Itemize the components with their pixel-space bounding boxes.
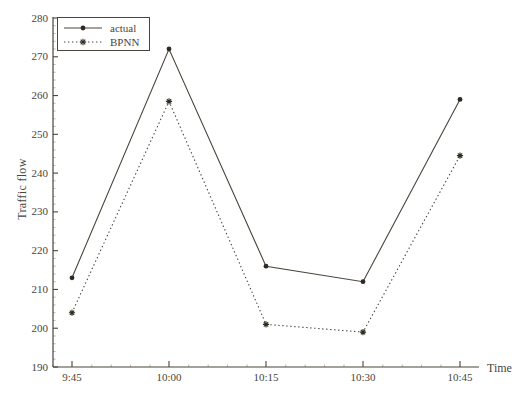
data-point-actual bbox=[70, 275, 75, 280]
data-point-actual bbox=[361, 279, 366, 284]
x-tick-label: 10:30 bbox=[350, 371, 376, 383]
y-tick-label: 270 bbox=[32, 50, 49, 62]
y-tick-label: 190 bbox=[32, 361, 49, 373]
x-tick-label: 10:15 bbox=[253, 371, 279, 383]
x-tick-label: 10:00 bbox=[156, 371, 182, 383]
y-tick-label: 200 bbox=[32, 322, 49, 334]
legend: actual BPNN bbox=[57, 17, 150, 51]
legend-label-actual: actual bbox=[110, 22, 136, 34]
y-tick-label: 230 bbox=[32, 205, 49, 217]
y-tick-label: 260 bbox=[32, 89, 49, 101]
legend-item-bpnn: BPNN bbox=[58, 35, 149, 49]
x-tick-label: 10:45 bbox=[447, 371, 473, 383]
legend-item-actual: actual bbox=[58, 21, 149, 35]
series-line-BPNN bbox=[72, 101, 460, 332]
y-tick-label: 280 bbox=[32, 12, 49, 24]
data-point-BPNN bbox=[166, 98, 172, 104]
y-tick-label: 240 bbox=[32, 167, 49, 179]
y-tick-label: 220 bbox=[32, 244, 49, 256]
actual-line-sample bbox=[63, 22, 103, 34]
x-tick-label: 9:45 bbox=[62, 371, 82, 383]
data-point-BPNN bbox=[360, 329, 366, 335]
bpnn-line-sample bbox=[63, 36, 103, 48]
data-point-actual bbox=[167, 47, 172, 52]
dot-marker-icon bbox=[81, 26, 86, 31]
data-point-actual bbox=[264, 264, 269, 269]
traffic-flow-figure: 1902002102202302402502602702809:4510:001… bbox=[0, 0, 525, 409]
y-axis-title: Traffic flow bbox=[15, 158, 30, 219]
y-tick-label: 210 bbox=[32, 283, 49, 295]
line-chart-canvas: 1902002102202302402502602702809:4510:001… bbox=[0, 0, 525, 409]
series-line-actual bbox=[72, 49, 460, 282]
y-tick-label: 250 bbox=[32, 128, 49, 140]
data-point-BPNN bbox=[263, 321, 269, 327]
data-point-BPNN bbox=[69, 310, 75, 316]
data-point-BPNN bbox=[457, 153, 463, 159]
asterisk-marker-icon bbox=[80, 39, 86, 45]
x-axis-title: Time bbox=[487, 361, 512, 376]
legend-label-bpnn: BPNN bbox=[110, 36, 139, 48]
data-point-actual bbox=[458, 97, 463, 102]
